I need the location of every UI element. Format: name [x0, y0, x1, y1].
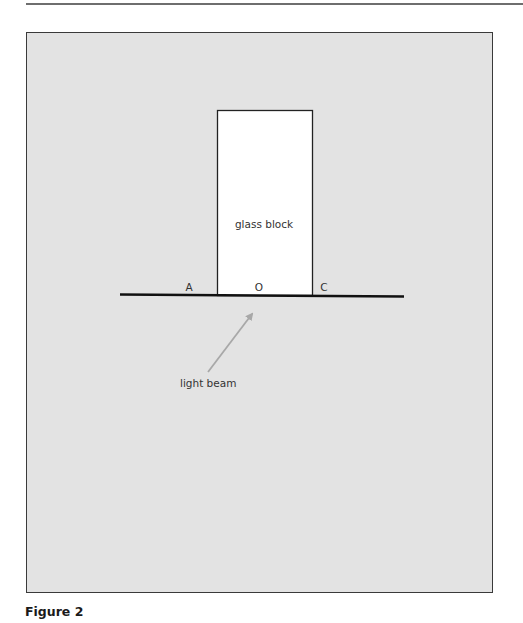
diagram-canvas: glass block A O C light beam [0, 0, 523, 623]
point-o-label: O [255, 281, 263, 293]
light-beam-arrow [208, 314, 252, 372]
boundary-line [120, 295, 404, 297]
beam-label: light beam [180, 377, 236, 389]
glass-block [218, 111, 313, 296]
point-a-label: A [185, 281, 193, 293]
point-c-label: C [320, 281, 327, 293]
block-label: glass block [235, 218, 294, 230]
figure-caption: Figure 2 [25, 604, 83, 619]
